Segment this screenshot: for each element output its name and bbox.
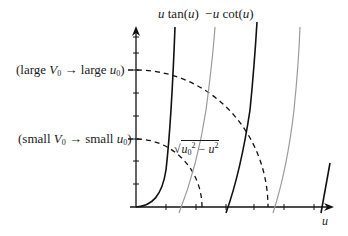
axes	[130, 26, 334, 211]
cot-curves	[179, 27, 300, 213]
tan-curve-label: u tan(u)	[158, 7, 199, 20]
large-v0-label: (large V0 → large u0)	[16, 63, 125, 78]
circle-equation-label: √u02 − u2	[174, 140, 219, 157]
cot-curve-label: −u cot(u)	[204, 7, 254, 20]
small-v0-label: (small V0 → small u0)	[18, 132, 131, 147]
graph-canvas	[0, 0, 348, 236]
x-axis-label: u	[322, 215, 328, 227]
sqrt-icon: √	[174, 142, 181, 156]
tan-curves	[136, 22, 330, 213]
large-u0-circle	[128, 70, 268, 207]
